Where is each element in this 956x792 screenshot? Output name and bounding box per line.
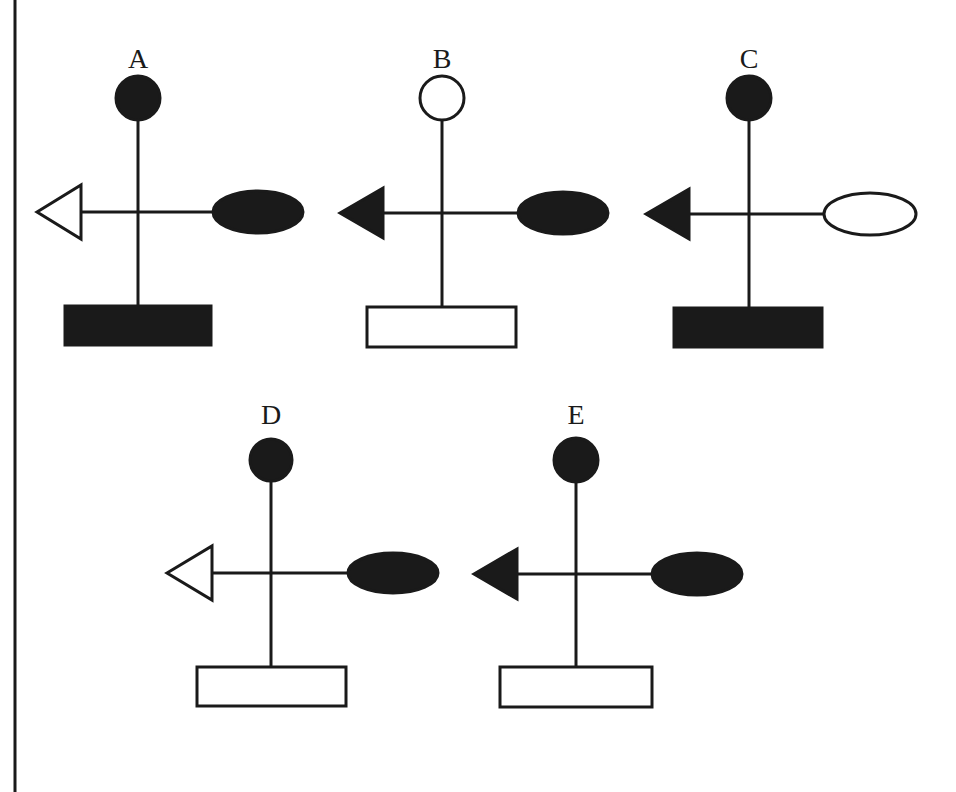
filled-triangle-icon [340,188,383,238]
filled-rectangle-icon [65,306,211,345]
option-d: D [167,399,438,706]
filled-circle-icon [554,438,598,482]
open-rectangle-icon [367,307,516,347]
open-triangle-icon [167,546,212,600]
filled-ellipse-icon [213,191,303,233]
filled-rectangle-icon [674,308,822,347]
filled-triangle-icon [646,189,689,239]
filled-triangle-icon [474,549,517,599]
option-e: E [474,399,742,707]
filled-circle-icon [727,76,771,120]
filled-circle-icon [116,76,160,120]
filled-ellipse-icon [652,553,742,595]
open-ellipse-icon [824,193,916,235]
open-rectangle-icon [197,667,346,706]
open-triangle-icon [37,185,81,239]
option-c: C [646,43,916,347]
open-rectangle-icon [500,667,652,707]
option-b: B [340,43,608,347]
open-circle-icon [420,76,464,120]
symbol-diagram: ABCDE [0,0,956,792]
option-label: B [433,43,452,74]
option-label: C [740,43,759,74]
option-label: D [261,399,281,430]
filled-ellipse-icon [348,553,438,593]
filled-ellipse-icon [518,192,608,234]
option-label: A [128,43,149,74]
filled-circle-icon [250,439,292,481]
option-a: A [37,43,303,345]
option-label: E [567,399,584,430]
